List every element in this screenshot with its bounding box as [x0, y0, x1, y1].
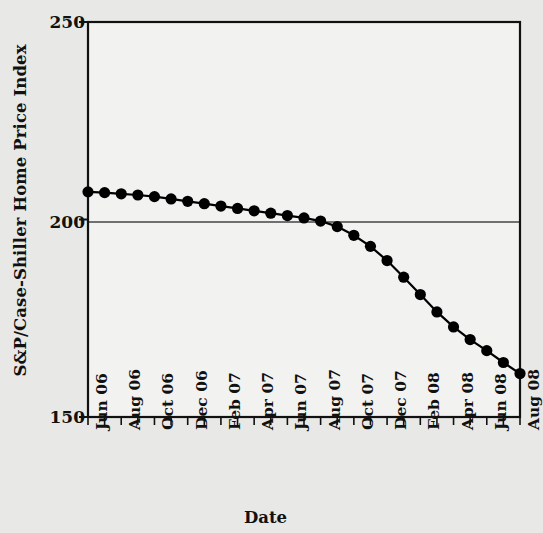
x-tick-label: Feb 07	[227, 372, 243, 430]
y-tick-label-250: 250	[33, 14, 85, 31]
x-tick-label: Jun 06	[94, 373, 110, 430]
data-point	[431, 306, 442, 317]
x-tick-label: Aug 08	[526, 369, 542, 430]
y-tick-label-150: 150	[33, 409, 85, 426]
x-tick-label: Jun 08	[493, 373, 509, 430]
data-point	[381, 255, 392, 266]
data-point	[232, 203, 243, 214]
data-point	[282, 210, 293, 221]
x-tick-label: Dec 07	[393, 370, 409, 430]
data-point	[99, 187, 110, 198]
x-tick-label: Aug 07	[327, 369, 343, 430]
data-point	[481, 345, 492, 356]
x-tick-label: Oct 07	[360, 373, 376, 430]
x-tick-label: Jun 07	[293, 373, 309, 430]
data-point	[298, 212, 309, 223]
data-point	[348, 230, 359, 241]
data-point	[498, 357, 509, 368]
x-tick-label: Feb 08	[426, 372, 442, 430]
x-tick-label: Aug 06	[127, 369, 143, 430]
data-point	[465, 334, 476, 345]
data-point	[398, 272, 409, 283]
y-axis-title: S&P/Case-Shiller Home Price Index	[11, 44, 30, 376]
data-point	[182, 196, 193, 207]
data-point	[199, 198, 210, 209]
data-point	[165, 193, 176, 204]
x-tick-label: Apr 07	[260, 372, 276, 430]
data-point	[265, 208, 276, 219]
data-point	[249, 205, 260, 216]
data-point	[365, 241, 376, 252]
data-point	[132, 189, 143, 200]
y-tick-label-200: 200	[33, 214, 85, 231]
data-point	[82, 186, 93, 197]
x-tick-label: Dec 06	[194, 370, 210, 430]
data-point	[116, 188, 127, 199]
x-tick-label: Oct 06	[160, 373, 176, 430]
data-point	[315, 215, 326, 226]
data-point	[149, 191, 160, 202]
x-axis-title: Date	[0, 508, 531, 527]
x-tick-label: Apr 08	[460, 372, 476, 430]
data-point	[448, 321, 459, 332]
data-point	[215, 200, 226, 211]
y-axis-title-container: S&P/Case-Shiller Home Price Index	[0, 0, 40, 420]
data-point	[332, 221, 343, 232]
data-point	[415, 289, 426, 300]
